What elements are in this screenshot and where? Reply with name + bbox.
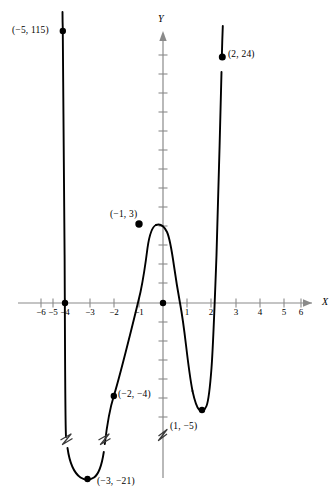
- x-tick-label-6: 6: [299, 307, 304, 317]
- dot-neg1-3: [135, 220, 142, 227]
- annotation-neg3-neg21: (−3, −21): [97, 476, 135, 486]
- dot-2-24: [219, 54, 226, 61]
- x-tick-label-neg4: −4: [60, 307, 70, 317]
- x-tick-label-neg3: −3: [85, 307, 95, 317]
- y-axis-label: Y: [158, 13, 164, 24]
- annotation-neg5-115: (−5, 115): [12, 25, 49, 35]
- annotation-neg1-3: (−1, 3): [110, 209, 137, 219]
- x-axis-label: X: [322, 296, 328, 307]
- x-tick-label-neg6: −6: [36, 307, 46, 317]
- x-tick-label-1: 1: [185, 307, 190, 317]
- curve: [63, 12, 223, 480]
- curve-break-marks: [61, 434, 111, 445]
- x-tick-label-2: 2: [209, 307, 214, 317]
- x-tick-label-4: 4: [258, 307, 263, 317]
- data-point-dots: [60, 28, 226, 482]
- dot-neg5-115: [60, 28, 66, 34]
- x-tick-label-3: 3: [234, 307, 239, 317]
- dot-neg3-neg21: [84, 476, 90, 482]
- annotation-2-24: (2, 24): [228, 49, 255, 59]
- x-tick-label-neg5: −5: [48, 307, 58, 317]
- x-tick-label-5: 5: [282, 307, 287, 317]
- annotation-1-neg5: (1, −5): [170, 421, 197, 431]
- x-tick-label-neg1: −1: [134, 307, 144, 317]
- dot-neg2-neg4: [111, 393, 117, 399]
- x-tick-label-neg2: −2: [109, 307, 119, 317]
- dot-neg4-0: [62, 300, 68, 306]
- dot-1-neg5: [199, 407, 205, 413]
- dot-0-0: [160, 300, 166, 306]
- plot-canvas: [0, 0, 336, 495]
- y-axis: [159, 31, 166, 478]
- annotation-neg2-neg4: (−2, −4): [118, 389, 151, 399]
- graph-figure: −6 −5 −4 −3 −2 −1 1 2 3 4 5 6 Y X (−5, 1…: [0, 0, 336, 495]
